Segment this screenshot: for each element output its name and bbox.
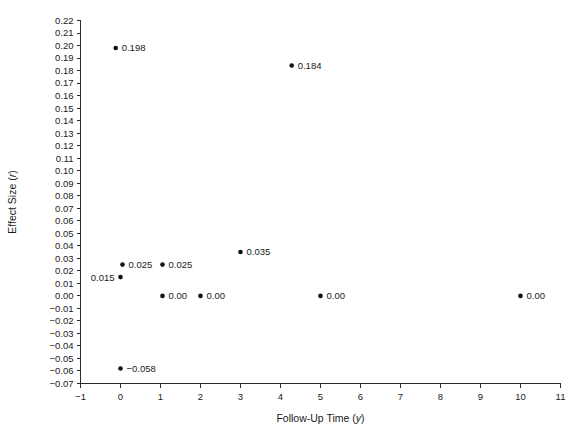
y-tick-label: 0.18 bbox=[55, 65, 74, 76]
y-tick-label: 0.00 bbox=[55, 290, 74, 301]
y-tick-label: 0.04 bbox=[55, 240, 74, 251]
x-tick-label: 11 bbox=[556, 391, 566, 402]
data-point-label: 0.00 bbox=[527, 290, 546, 301]
y-tick-label: −0.05 bbox=[49, 353, 73, 364]
y-tick-label: 0.15 bbox=[55, 103, 74, 114]
x-tick-label: 8 bbox=[438, 391, 443, 402]
y-tick-label: 0.12 bbox=[55, 140, 74, 151]
y-tick-label: −0.03 bbox=[49, 328, 73, 339]
data-point-label: 0.00 bbox=[169, 290, 188, 301]
data-point bbox=[160, 262, 165, 267]
data-point-label: −0.058 bbox=[127, 363, 156, 374]
data-point-label: 0.00 bbox=[207, 290, 226, 301]
x-tick-label: 7 bbox=[398, 391, 403, 402]
y-tick-label: −0.01 bbox=[49, 303, 73, 314]
x-tick-label: 0 bbox=[118, 391, 123, 402]
y-tick-label: −0.04 bbox=[49, 340, 73, 351]
y-tick-label: 0.10 bbox=[55, 165, 74, 176]
data-point bbox=[518, 294, 523, 299]
data-point-label: 0.015 bbox=[91, 272, 115, 283]
x-tick-label: 4 bbox=[278, 391, 283, 402]
y-tick-label: 0.13 bbox=[55, 128, 74, 139]
data-point bbox=[120, 262, 125, 267]
data-point bbox=[289, 63, 294, 68]
y-tick-label: 0.20 bbox=[55, 40, 74, 51]
y-tick-label: 0.08 bbox=[55, 190, 74, 201]
y-tick-label: 0.05 bbox=[55, 228, 74, 239]
y-tick-label: −0.02 bbox=[49, 315, 73, 326]
data-point-label: 0.198 bbox=[122, 42, 146, 53]
data-point-label: 0.184 bbox=[298, 60, 322, 71]
data-point bbox=[160, 294, 165, 299]
chart-canvas: 0.220.210.200.190.180.170.160.150.140.13… bbox=[0, 0, 578, 442]
y-tick-label: −0.06 bbox=[49, 365, 73, 376]
x-tick-label: 2 bbox=[198, 391, 203, 402]
y-tick-label: −0.07 bbox=[49, 378, 73, 389]
y-tick-label: 0.06 bbox=[55, 215, 74, 226]
x-axis-title: Follow-Up Time (y) bbox=[276, 412, 364, 424]
y-tick-label: 0.22 bbox=[55, 15, 74, 26]
data-point bbox=[198, 294, 203, 299]
data-point bbox=[118, 366, 123, 371]
data-point bbox=[318, 294, 323, 299]
y-tick-label: 0.19 bbox=[55, 52, 74, 63]
data-point-label: 0.00 bbox=[327, 290, 346, 301]
x-tick-label: 10 bbox=[515, 391, 526, 402]
x-tick-label: 1 bbox=[158, 391, 163, 402]
y-tick-label: 0.16 bbox=[55, 90, 74, 101]
y-tick-label: 0.03 bbox=[55, 253, 74, 264]
data-point-label: 0.025 bbox=[169, 259, 193, 270]
y-tick-label: 0.09 bbox=[55, 178, 74, 189]
y-tick-label: 0.21 bbox=[55, 27, 74, 38]
data-point-label: 0.035 bbox=[247, 246, 271, 257]
y-tick-label: 0.11 bbox=[56, 153, 74, 164]
y-tick-label: 0.07 bbox=[55, 203, 74, 214]
y-tick-label: 0.14 bbox=[55, 115, 74, 126]
y-tick-label: 0.17 bbox=[55, 77, 74, 88]
data-point bbox=[118, 275, 123, 280]
y-axis-title: Effect Size (r) bbox=[6, 170, 18, 233]
x-tick-label: 6 bbox=[358, 391, 363, 402]
data-point bbox=[113, 46, 118, 51]
y-tick-label: 0.01 bbox=[55, 278, 74, 289]
x-tick-label: −1 bbox=[75, 391, 86, 402]
data-point bbox=[238, 250, 243, 255]
x-tick-label: 3 bbox=[238, 391, 243, 402]
x-tick-label: 5 bbox=[318, 391, 323, 402]
data-point-label: 0.025 bbox=[129, 259, 153, 270]
scatter-plot-figure: 0.220.210.200.190.180.170.160.150.140.13… bbox=[0, 0, 578, 442]
y-tick-label: 0.02 bbox=[55, 265, 74, 276]
x-tick-label: 9 bbox=[478, 391, 483, 402]
